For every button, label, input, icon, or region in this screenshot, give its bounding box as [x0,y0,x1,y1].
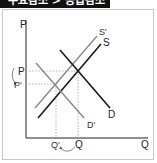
curve-label-s: S [103,37,110,48]
price-label-p-prime: P' [14,80,22,90]
quantity-decrease-arrow [60,147,75,151]
y-axis-label: P [20,19,27,30]
x-axis-label: Q [141,139,149,150]
supply-demand-diagram: P Q P P' Q Q' S' S D D' [0,0,157,163]
price-label-p: P [18,66,25,77]
quantity-label-q: Q [75,139,83,150]
curve-label-s-prime: S' [99,27,107,37]
quantity-label-q-prime: Q' [51,140,60,150]
curve-label-d-prime: D' [87,120,95,130]
supply-curve-s [38,44,101,118]
curve-label-d: D [108,109,115,120]
